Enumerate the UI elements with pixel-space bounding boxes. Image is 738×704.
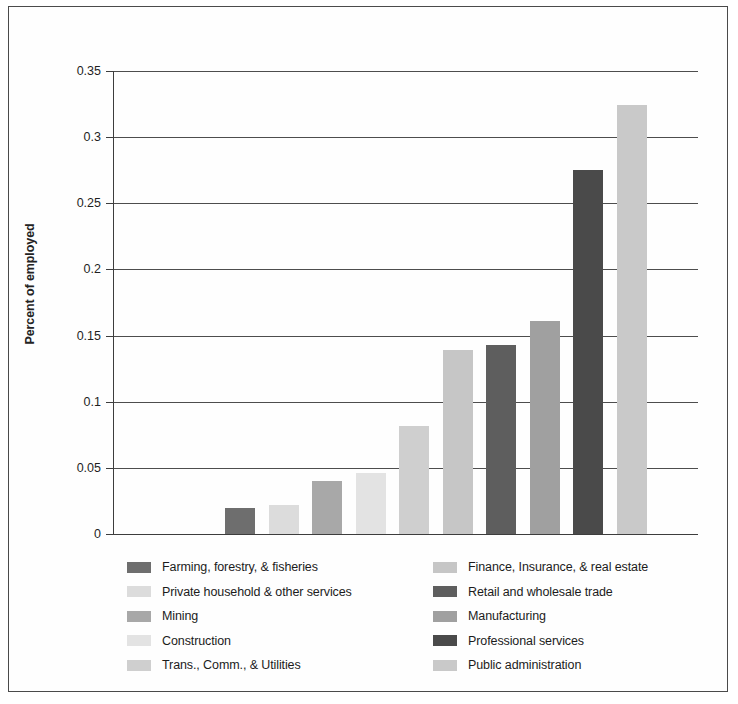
legend-item: Trans., Comm., & Utilities	[127, 653, 352, 678]
y-axis-line	[113, 71, 114, 534]
gridline-0.35	[113, 71, 698, 72]
y-tick-label: 0.1	[84, 395, 101, 409]
y-tick-label: 0	[94, 527, 101, 541]
gridline-0.3	[113, 137, 698, 138]
gridline-0.2	[113, 269, 698, 270]
legend-label: Mining	[162, 609, 198, 623]
bar	[356, 473, 386, 534]
tick-mark-0	[106, 534, 114, 535]
y-axis-title: Percent of employed	[23, 199, 37, 369]
legend-column-right: Finance, Insurance, & real estateRetail …	[433, 555, 648, 678]
bar	[530, 321, 560, 534]
gridline-0	[113, 534, 698, 535]
gridline-0.15	[113, 336, 698, 337]
legend-swatch-icon	[433, 660, 457, 671]
bar	[573, 170, 603, 534]
y-tick-label: 0.35	[77, 64, 101, 78]
legend-label: Trans., Comm., & Utilities	[162, 658, 301, 672]
legend-swatch-icon	[127, 611, 151, 622]
chart-legend: Farming, forestry, & fisheriesPrivate ho…	[9, 555, 729, 687]
tick-mark-0.25	[106, 203, 114, 204]
legend-label: Retail and wholesale trade	[468, 585, 613, 599]
gridline-0.25	[113, 203, 698, 204]
bar	[269, 505, 299, 534]
y-tick-label: 0.05	[77, 461, 101, 475]
y-tick-label: 0.3	[84, 130, 101, 144]
plot-area: 00.050.10.150.20.250.30.35	[113, 71, 698, 534]
bar	[225, 508, 255, 534]
bar	[617, 105, 647, 534]
tick-mark-0.3	[106, 137, 114, 138]
y-tick-label: 0.2	[84, 262, 101, 276]
legend-swatch-icon	[433, 586, 457, 597]
y-tick-label: 0.25	[77, 196, 101, 210]
legend-label: Professional services	[468, 634, 584, 648]
legend-swatch-icon	[127, 635, 151, 646]
legend-swatch-icon	[127, 586, 151, 597]
legend-item: Construction	[127, 629, 352, 654]
chart-region: Percent of employed 00.050.10.150.20.250…	[9, 7, 729, 553]
legend-swatch-icon	[433, 635, 457, 646]
tick-mark-0.1	[106, 402, 114, 403]
legend-column-left: Farming, forestry, & fisheriesPrivate ho…	[127, 555, 352, 678]
legend-item: Finance, Insurance, & real estate	[433, 555, 648, 580]
legend-label: Finance, Insurance, & real estate	[468, 560, 648, 574]
legend-item: Professional services	[433, 629, 648, 654]
y-tick-label: 0.15	[77, 329, 101, 343]
tick-mark-0.2	[106, 269, 114, 270]
legend-label: Public administration	[468, 658, 581, 672]
bar	[486, 345, 516, 534]
legend-swatch-icon	[433, 611, 457, 622]
legend-swatch-icon	[433, 562, 457, 573]
legend-label: Farming, forestry, & fisheries	[162, 560, 318, 574]
legend-label: Construction	[162, 634, 231, 648]
tick-mark-0.35	[106, 71, 114, 72]
bar	[443, 350, 473, 534]
legend-label: Manufacturing	[468, 609, 546, 623]
figure-frame: Percent of employed 00.050.10.150.20.250…	[8, 6, 728, 692]
bar	[399, 426, 429, 534]
legend-item: Mining	[127, 604, 352, 629]
tick-mark-0.05	[106, 468, 114, 469]
legend-item: Public administration	[433, 653, 648, 678]
legend-item: Private household & other services	[127, 580, 352, 605]
legend-item: Farming, forestry, & fisheries	[127, 555, 352, 580]
legend-swatch-icon	[127, 562, 151, 573]
legend-label: Private household & other services	[162, 585, 352, 599]
gridline-0.1	[113, 402, 698, 403]
tick-mark-0.15	[106, 336, 114, 337]
legend-swatch-icon	[127, 660, 151, 671]
legend-item: Retail and wholesale trade	[433, 580, 648, 605]
bar	[312, 481, 342, 534]
legend-item: Manufacturing	[433, 604, 648, 629]
